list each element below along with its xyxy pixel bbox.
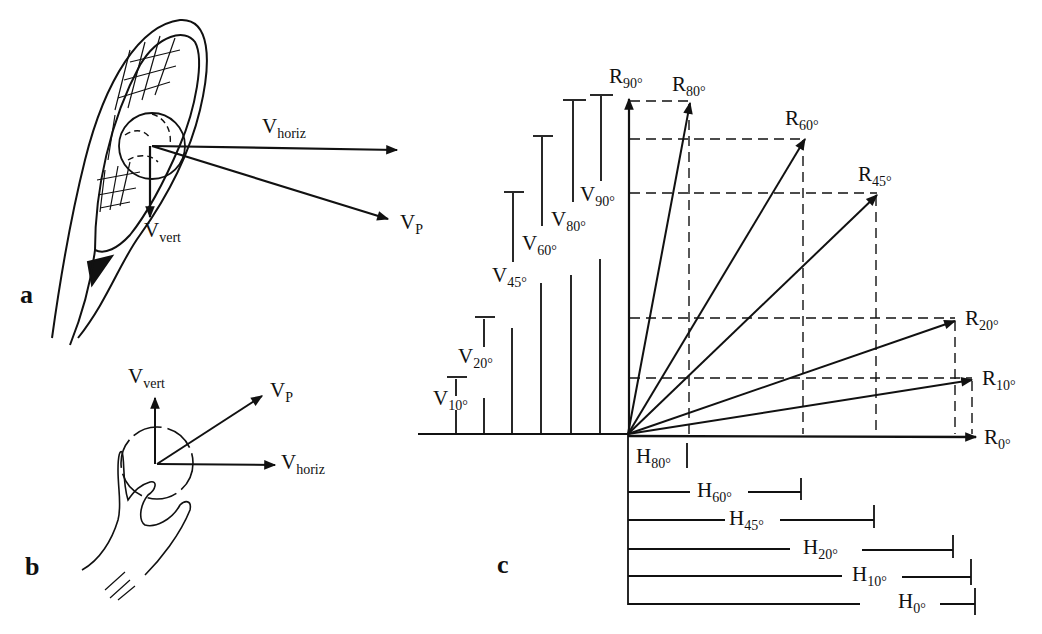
v-horiz-arrow-b [157, 464, 275, 465]
label-v-45: V45° [492, 265, 527, 290]
vertical-component-bars [447, 95, 613, 434]
label-r-90: R90° [609, 66, 643, 91]
label-r-10: R10° [982, 368, 1016, 393]
racket-frame-outer [52, 20, 207, 338]
horizontal-component-bars [628, 443, 975, 615]
label-h-10: H10° [852, 564, 887, 589]
label-h-0: H0° [898, 591, 926, 616]
label-h-45: H45° [729, 508, 764, 533]
hand-outline [82, 452, 190, 575]
label-v-vert-b: Vvert [128, 366, 165, 391]
r-10-arrow [628, 380, 972, 434]
v-p-arrow-a [152, 146, 388, 219]
racket-strings [97, 36, 180, 212]
label-v-90: V90° [580, 184, 615, 209]
label-v-p-b: VP [270, 380, 293, 405]
label-r-20: R20° [965, 308, 999, 333]
label-v-80: V80° [551, 209, 586, 234]
figure-canvas [0, 0, 1042, 634]
label-h-20: H20° [803, 537, 838, 562]
r-60-arrow [628, 139, 805, 434]
label-r-80: R80° [672, 74, 706, 99]
r-0-arrow [628, 436, 976, 437]
panel-b-illustration [82, 396, 275, 600]
label-h-80: H80° [636, 446, 671, 471]
label-r-60: R60° [785, 108, 819, 133]
label-v-vert-a: Vvert [144, 220, 181, 245]
label-v-60: V60° [522, 233, 557, 258]
panel-letter-c: c [497, 552, 509, 578]
label-h-60: H60° [697, 480, 732, 505]
panel-letter-b: b [25, 554, 39, 580]
label-v-p-a: VP [400, 212, 423, 237]
label-v-10: V10° [433, 388, 468, 413]
label-r-0: R0° [984, 427, 1011, 452]
panel-letter-a: a [20, 282, 33, 308]
panel-c-diagram [418, 95, 976, 615]
label-v-horiz-a: Vhoriz [262, 116, 306, 141]
panel-a-illustration [52, 20, 397, 345]
label-v-20: V20° [458, 346, 493, 371]
label-r-45: R45° [858, 164, 892, 189]
label-v-horiz-b: Vhoriz [281, 452, 325, 477]
